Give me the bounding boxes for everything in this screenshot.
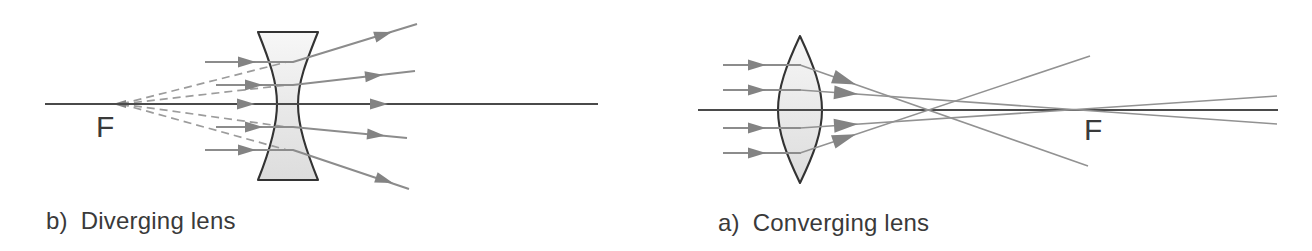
caption-converging-lens: a) Converging lens — [718, 211, 929, 235]
caption-prefix: a) — [718, 211, 740, 235]
virtual-ray-dashed — [121, 85, 287, 104]
caption-text: Converging lens — [753, 211, 929, 235]
ray-arrowhead-icon — [238, 145, 256, 156]
ray-arrowhead-icon — [748, 148, 766, 159]
caption-prefix: b) — [46, 209, 68, 233]
virtual-ray-dashed — [121, 62, 287, 104]
diverging-lens-diagram — [45, 24, 598, 189]
light-ray — [800, 90, 1277, 124]
caption-diverging-lens: b) Diverging lens — [46, 209, 236, 233]
light-ray — [800, 96, 1277, 128]
ray-arrowhead-icon — [834, 117, 859, 133]
ray-arrowhead-icon — [834, 85, 859, 101]
ray-arrowhead-icon — [370, 99, 388, 110]
ray-arrowhead-icon — [374, 172, 395, 188]
ray-arrowhead-icon — [367, 129, 386, 142]
ray-arrowhead-icon — [748, 123, 766, 134]
virtual-ray-dashed — [121, 104, 287, 127]
ray-arrowhead-icon — [373, 27, 393, 43]
ray-arrowhead-icon — [238, 57, 256, 68]
converging-lens-diagram — [698, 36, 1278, 183]
biconcave-lens-shape — [258, 32, 318, 180]
ray-arrowhead-icon — [748, 85, 766, 96]
focal-point-label: F — [96, 112, 114, 142]
focal-point-label: F — [1084, 115, 1102, 145]
ray-arrowhead-icon — [748, 60, 766, 71]
ray-arrowhead-icon — [237, 99, 255, 110]
textbook-figure: F F b) Diverging lens a) Converging lens — [0, 0, 1312, 251]
caption-text: Diverging lens — [81, 209, 236, 233]
